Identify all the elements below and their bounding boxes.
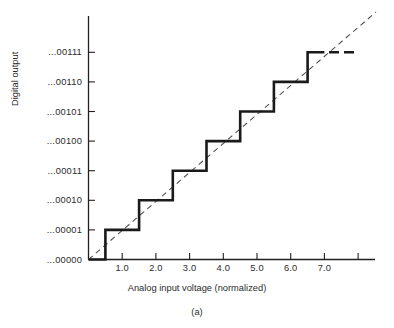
x-tick-label-1: 1.0 xyxy=(115,263,129,273)
y-tick-label-5: ...00101 xyxy=(22,107,82,117)
figure-quantizer-transfer-characteristic: ...00000 ...00001 ...00010 ...00011 ...0… xyxy=(0,0,394,328)
y-tick-label-7: ...00111 xyxy=(22,47,82,57)
y-tick-label-4: ...00100 xyxy=(22,136,82,146)
y-tick-label-0: ...00000 xyxy=(22,255,82,265)
x-tick-label-6: 6.0 xyxy=(284,263,298,273)
figure-caption: (a) xyxy=(0,307,394,317)
y-axis-title: Digital output xyxy=(10,92,20,106)
x-tick-label-5: 5.0 xyxy=(250,263,264,273)
x-axis-title: Analog input voltage (normalized) xyxy=(0,283,394,293)
y-axis-ticks xyxy=(89,52,96,259)
x-tick-label-4: 4.0 xyxy=(217,263,231,273)
quantizer-staircase xyxy=(89,52,325,259)
ideal-transfer-line xyxy=(89,12,377,260)
y-tick-label-2: ...00010 xyxy=(22,195,82,205)
y-tick-label-6: ...00110 xyxy=(22,77,82,87)
x-axis-ticks xyxy=(122,253,358,260)
x-tick-label-3: 3.0 xyxy=(183,263,197,273)
x-tick-label-2: 2.0 xyxy=(149,263,163,273)
y-tick-label-3: ...00011 xyxy=(22,166,82,176)
x-tick-label-7: 7.0 xyxy=(318,263,332,273)
y-tick-label-1: ...00001 xyxy=(22,225,82,235)
